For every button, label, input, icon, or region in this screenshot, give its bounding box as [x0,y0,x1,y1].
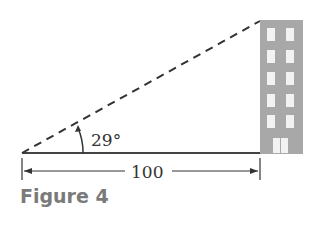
figure-caption: Figure 4 [20,185,109,207]
arrow-left-icon [24,168,32,174]
building [260,20,303,154]
angle-arrow-icon [75,125,81,132]
line-of-sight [22,21,260,153]
angle-arc [78,128,83,153]
distance-label: 100 [131,162,163,182]
angle-label: 29° [91,130,121,150]
arrow-right-icon [250,168,258,174]
